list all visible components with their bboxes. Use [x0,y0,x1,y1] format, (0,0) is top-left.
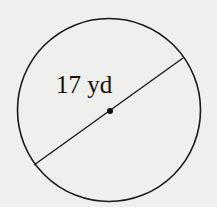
center-point [107,108,113,114]
diameter-label: 17 yd [56,71,113,98]
circle-diagram: 17 yd [0,0,217,207]
diagram-svg: 17 yd [0,0,217,207]
